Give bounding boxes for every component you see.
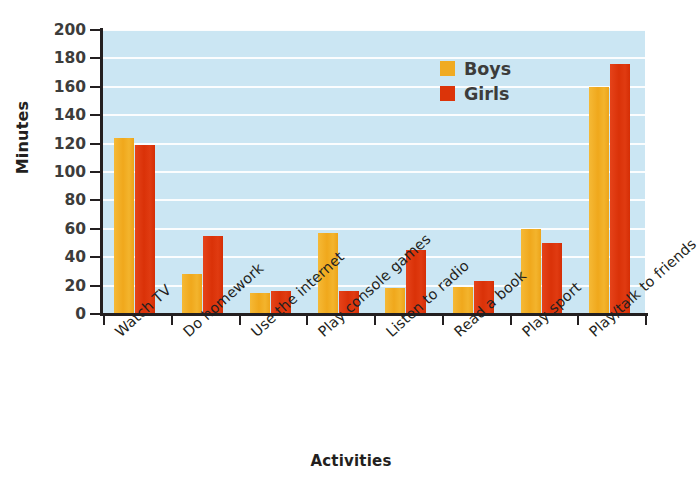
y-axis-tick-label: 180 [50, 49, 86, 67]
y-axis-tick-label-wrap: 140 [46, 106, 86, 124]
y-axis-tick [90, 114, 101, 116]
bar-girls-7 [610, 64, 630, 314]
y-axis-tick-label: 60 [50, 220, 86, 238]
legend-swatch-boys-icon [440, 61, 455, 76]
x-axis-tick [239, 314, 241, 325]
gridline [103, 86, 645, 88]
y-axis-tick [90, 256, 101, 258]
gridline [103, 57, 645, 59]
y-axis-tick-label: 40 [50, 248, 86, 266]
x-axis-tick [645, 314, 647, 325]
y-axis-title: Minutes [13, 68, 32, 208]
y-axis-tick [90, 57, 101, 59]
legend: Boys Girls [440, 56, 511, 106]
legend-label-boys: Boys [464, 59, 511, 79]
plot-area [103, 30, 645, 314]
legend-label-girls: Girls [464, 84, 509, 104]
legend-swatch-girls-icon [440, 86, 455, 101]
y-axis-tick-label-wrap: 120 [46, 135, 86, 153]
gridline [103, 199, 645, 201]
y-axis-tick-label: 100 [50, 163, 86, 181]
y-axis-tick [90, 171, 101, 173]
legend-item-boys: Boys [440, 56, 511, 81]
x-axis-tick [374, 314, 376, 325]
gridline [103, 30, 645, 31]
y-axis-tick-label-wrap: 40 [46, 248, 86, 266]
gridline [103, 114, 645, 116]
bar-boys-1 [182, 274, 202, 314]
y-axis-tick-label: 20 [50, 277, 86, 295]
y-axis-tick [90, 199, 101, 201]
y-axis-tick-label-wrap: 0 [46, 305, 86, 323]
y-axis-tick-label-wrap: 20 [46, 277, 86, 295]
legend-item-girls: Girls [440, 81, 511, 106]
x-axis-tick [577, 314, 579, 325]
bar-girls-0 [135, 145, 155, 314]
y-axis-tick-label-wrap: 180 [46, 49, 86, 67]
y-axis-tick-label: 200 [50, 21, 86, 39]
y-axis-tick [90, 86, 101, 88]
y-axis-tick-label: 160 [50, 78, 86, 96]
x-axis-tick [510, 314, 512, 325]
y-axis-tick-label-wrap: 80 [46, 191, 86, 209]
gridline [103, 228, 645, 230]
gridline [103, 171, 645, 173]
x-axis-tick [306, 314, 308, 325]
y-axis-tick [90, 143, 101, 145]
gridline [103, 143, 645, 145]
x-axis-title-text: Activities [310, 452, 391, 470]
x-axis-tick [103, 314, 105, 325]
y-axis-tick-label-wrap: 100 [46, 163, 86, 181]
bar-boys-6 [521, 229, 541, 314]
gridline [103, 256, 645, 258]
y-axis-tick-label-wrap: 200 [46, 21, 86, 39]
y-axis-tick-label: 120 [50, 135, 86, 153]
y-axis-tick-label-wrap: 60 [46, 220, 86, 238]
y-axis-tick [90, 285, 101, 287]
x-axis-tick [171, 314, 173, 325]
bar-boys-7 [589, 87, 609, 314]
y-axis-tick-label-wrap: 160 [46, 78, 86, 96]
y-axis-tick [90, 228, 101, 230]
y-axis-tick-label: 0 [50, 305, 86, 323]
y-axis-tick-label: 140 [50, 106, 86, 124]
x-axis-title: Activities [0, 452, 668, 470]
x-axis-tick [442, 314, 444, 325]
bar-boys-0 [114, 138, 134, 314]
y-axis-tick-label: 80 [50, 191, 86, 209]
y-axis-tick [90, 29, 101, 31]
